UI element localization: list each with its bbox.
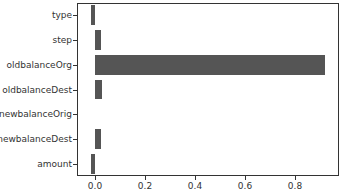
y-tick-label: amount	[37, 159, 72, 169]
y-tick-mark	[73, 114, 77, 115]
x-tick-label: 0.6	[238, 181, 252, 191]
y-tick-mark	[73, 15, 77, 16]
y-tick-label: newbalanceDest	[0, 134, 72, 144]
x-tick-mark	[95, 176, 96, 180]
y-tick-mark	[73, 164, 77, 165]
y-tick-label: newbalanceOrig	[0, 109, 72, 119]
x-tick-label: 0.8	[288, 181, 302, 191]
x-tick-label: 0.2	[138, 181, 152, 191]
bar-type	[91, 5, 95, 25]
y-tick-mark	[73, 65, 77, 66]
x-tick-label: 0.0	[88, 181, 102, 191]
y-tick-mark	[73, 40, 77, 41]
x-tick-mark	[245, 176, 246, 180]
bar-step	[95, 30, 101, 50]
bar-newbalanceDest	[95, 129, 101, 149]
y-tick-label: type	[52, 10, 72, 20]
y-tick-label: oldbalanceOrg	[7, 60, 73, 70]
bar-amount	[91, 154, 96, 174]
x-tick-mark	[195, 176, 196, 180]
x-tick-label: 0.4	[188, 181, 202, 191]
x-tick-mark	[145, 176, 146, 180]
y-tick-mark	[73, 90, 77, 91]
bar-oldbalanceDest	[95, 80, 102, 100]
x-tick-mark	[295, 176, 296, 180]
y-tick-label: oldbalanceDest	[2, 85, 72, 95]
plot-area	[77, 3, 339, 176]
y-tick-mark	[73, 139, 77, 140]
y-tick-label: step	[53, 35, 72, 45]
bar-oldbalanceOrg	[95, 55, 325, 75]
